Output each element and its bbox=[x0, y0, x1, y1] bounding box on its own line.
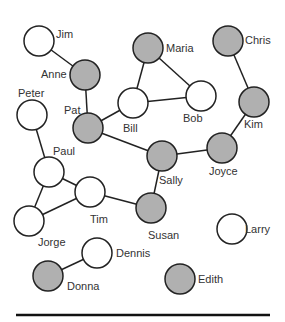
node-label-bill: Bill bbox=[123, 122, 138, 134]
node-label-tim: Tim bbox=[90, 213, 108, 225]
node-label-larry: Larry bbox=[245, 223, 271, 235]
node-label-donna: Donna bbox=[67, 280, 100, 292]
node-circle-chris bbox=[213, 26, 243, 56]
node-pat: Pat bbox=[64, 104, 103, 143]
node-jim: Jim bbox=[24, 26, 73, 56]
node-label-jorge: Jorge bbox=[38, 236, 66, 248]
node-paul: Paul bbox=[34, 145, 75, 187]
node-label-chris: Chris bbox=[245, 34, 271, 46]
node-dennis: Dennis bbox=[82, 238, 151, 268]
node-kim: Kim bbox=[239, 87, 269, 130]
node-circle-sally bbox=[147, 141, 177, 171]
node-label-kim: Kim bbox=[244, 118, 263, 130]
network-diagram: JimAnneMariaChrisPeterPatBillBobKimPaulS… bbox=[0, 0, 285, 322]
node-label-sally: Sally bbox=[159, 174, 183, 186]
node-label-paul: Paul bbox=[53, 145, 75, 157]
node-label-dennis: Dennis bbox=[116, 247, 151, 259]
node-circle-paul bbox=[34, 157, 64, 187]
node-peter: Peter bbox=[17, 87, 47, 130]
node-chris: Chris bbox=[213, 26, 271, 56]
node-larry: Larry bbox=[217, 214, 271, 244]
node-circle-anne bbox=[70, 60, 100, 90]
node-circle-edith bbox=[165, 264, 195, 294]
node-circle-jorge bbox=[14, 206, 44, 236]
node-joyce: Joyce bbox=[207, 133, 238, 177]
node-circle-maria bbox=[133, 33, 163, 63]
node-circle-peter bbox=[17, 100, 47, 130]
node-circle-susan bbox=[136, 193, 166, 223]
node-circle-dennis bbox=[82, 238, 112, 268]
node-jorge: Jorge bbox=[14, 206, 66, 248]
node-circle-donna bbox=[33, 261, 63, 291]
node-bob: Bob bbox=[183, 81, 216, 124]
node-tim: Tim bbox=[75, 177, 108, 225]
node-circle-joyce bbox=[207, 133, 237, 163]
node-maria: Maria bbox=[133, 33, 194, 63]
node-circle-jim bbox=[24, 26, 54, 56]
node-bill: Bill bbox=[118, 88, 148, 134]
node-sally: Sally bbox=[147, 141, 183, 186]
node-circle-pat bbox=[73, 113, 103, 143]
node-susan: Susan bbox=[136, 193, 179, 241]
node-circle-larry bbox=[217, 214, 247, 244]
node-label-susan: Susan bbox=[148, 229, 179, 241]
node-circle-kim bbox=[239, 87, 269, 117]
node-label-jim: Jim bbox=[56, 28, 73, 40]
node-label-edith: Edith bbox=[198, 273, 223, 285]
node-circle-tim bbox=[75, 177, 105, 207]
node-label-maria: Maria bbox=[166, 42, 194, 54]
node-label-peter: Peter bbox=[18, 87, 45, 99]
node-edith: Edith bbox=[165, 264, 223, 294]
node-label-pat: Pat bbox=[64, 104, 81, 116]
node-label-bob: Bob bbox=[183, 112, 203, 124]
node-circle-bob bbox=[186, 81, 216, 111]
node-circle-bill bbox=[118, 88, 148, 118]
node-label-anne: Anne bbox=[41, 68, 67, 80]
node-label-joyce: Joyce bbox=[209, 165, 238, 177]
